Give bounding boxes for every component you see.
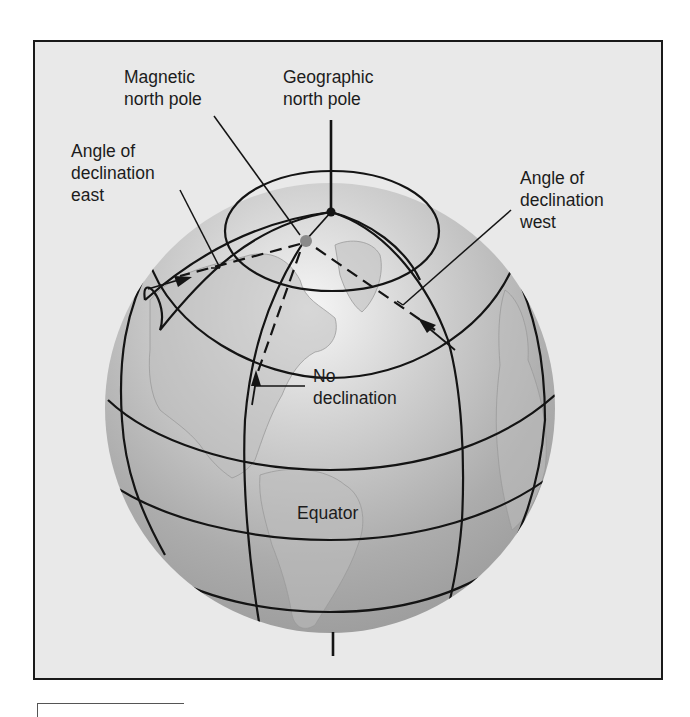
label-no-declination: No declination [313,365,397,409]
label-angle-declination-west: Angle of declination west [520,167,604,233]
label-angle-declination-east: Angle of declination east [71,140,155,206]
label-equator: Equator [297,502,358,524]
label-geographic-north-pole: Geographic north pole [283,66,373,110]
caption-rule [37,703,184,717]
label-magnetic-north-pole: Magnetic north pole [124,66,202,110]
magnetic-pole-dot [300,235,312,247]
